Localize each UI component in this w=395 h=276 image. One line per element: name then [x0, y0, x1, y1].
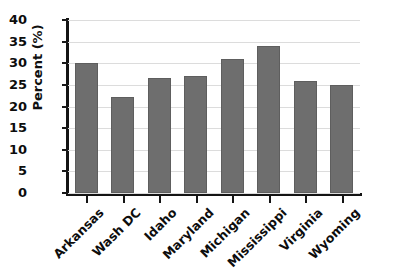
y-tick-label: 20 [0, 100, 27, 113]
y-tick-label: 5 [0, 164, 27, 177]
bar [184, 76, 207, 193]
bar [294, 81, 317, 193]
y-tick-mark [62, 192, 68, 194]
plot-area: 4035302520151050 [68, 20, 360, 193]
y-axis-title: Percent (%) [30, 8, 45, 128]
x-tick-mark [123, 196, 125, 203]
x-tick-mark [159, 196, 161, 203]
bar [148, 78, 171, 193]
y-tick-label: 40 [0, 13, 27, 26]
y-tick-mark [62, 127, 68, 129]
x-tick-mark [342, 196, 344, 203]
bar [221, 59, 244, 193]
y-tick-label: 15 [0, 121, 27, 134]
x-tick-mark [86, 196, 88, 203]
y-tick-label: 35 [0, 35, 27, 48]
y-tick-label: 0 [0, 186, 27, 199]
y-tick-mark [62, 170, 68, 172]
gridline [68, 42, 360, 43]
x-tick-mark [196, 196, 198, 203]
y-tick-mark [62, 149, 68, 151]
y-tick-mark [62, 41, 68, 43]
y-tick-mark [62, 106, 68, 108]
gridline [68, 63, 360, 64]
x-tick-mark [305, 196, 307, 203]
bar [257, 46, 280, 193]
bar [111, 97, 134, 193]
x-tick-mark [232, 196, 234, 203]
x-tick-mark [269, 196, 271, 203]
bar-chart: Percent (%) 4035302520151050 ArkansasWas… [0, 0, 395, 276]
bar [75, 63, 98, 193]
y-tick-mark [62, 62, 68, 64]
y-tick-mark [62, 19, 68, 21]
y-tick-mark [62, 84, 68, 86]
y-tick-label: 10 [0, 143, 27, 156]
gridline [68, 193, 360, 194]
bar [330, 85, 353, 193]
gridline [68, 20, 360, 21]
y-tick-label: 30 [0, 56, 27, 69]
y-tick-label: 25 [0, 78, 27, 91]
